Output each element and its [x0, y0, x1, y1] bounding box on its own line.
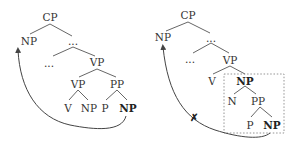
edge	[53, 47, 73, 56]
edge	[211, 43, 229, 53]
edge	[260, 107, 272, 117]
node-np-moved: NP	[119, 102, 137, 114]
edge	[230, 66, 245, 74]
node-np-spec: NP	[21, 35, 37, 47]
edge	[245, 86, 256, 94]
edge	[166, 22, 188, 31]
node-p: P	[101, 102, 108, 114]
node-np-moved: NP	[263, 119, 281, 131]
edge	[78, 90, 88, 100]
node-np-obj: NP	[81, 102, 97, 114]
node-dots: ...	[185, 53, 195, 65]
node-v: V	[63, 102, 72, 114]
node-n: N	[227, 95, 236, 107]
node-dots: ...	[206, 32, 216, 44]
edge	[213, 66, 230, 74]
node-dots: ...	[68, 35, 78, 47]
edge	[106, 90, 117, 100]
edge	[234, 86, 245, 94]
syntax-tree-diagram: CP NP ... ... VP VP PP V NP P NP CP NP .…	[0, 0, 298, 143]
edge	[251, 107, 260, 117]
node-v: V	[207, 75, 216, 87]
edge	[193, 43, 211, 53]
node-pp: PP	[251, 95, 265, 107]
edge	[97, 69, 116, 77]
node-cp: CP	[42, 11, 57, 23]
right-tree: CP NP ... ... VP V NP N PP P NP ✗	[155, 9, 284, 137]
node-cp: CP	[180, 9, 195, 21]
edge	[69, 90, 78, 100]
node-vp-low: VP	[70, 78, 86, 90]
edge	[73, 47, 95, 56]
blocked-x-icon: ✗	[190, 112, 198, 123]
node-vp-top: VP	[89, 56, 105, 68]
edge	[79, 69, 97, 77]
left-tree: CP NP ... ... VP VP PP V NP P NP	[18, 11, 137, 129]
node-np-spec: NP	[155, 31, 171, 43]
node-pp: PP	[110, 78, 124, 90]
node-vp: VP	[222, 54, 238, 66]
node-p: P	[246, 119, 253, 131]
node-dots: ...	[44, 57, 54, 69]
edge	[117, 90, 127, 100]
node-np-complex: NP	[236, 75, 254, 87]
edge	[30, 24, 50, 34]
